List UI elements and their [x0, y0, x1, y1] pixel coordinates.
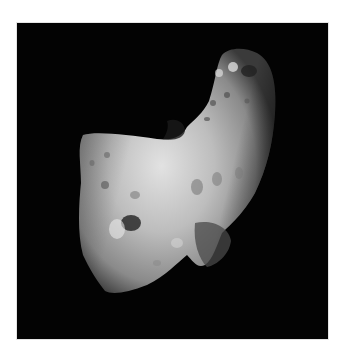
asteroid-image [17, 23, 328, 339]
figure-caption-cropped: 一一一一一一一一一一一一一一一 [65, 0, 195, 5]
asteroid-photo [17, 23, 328, 339]
